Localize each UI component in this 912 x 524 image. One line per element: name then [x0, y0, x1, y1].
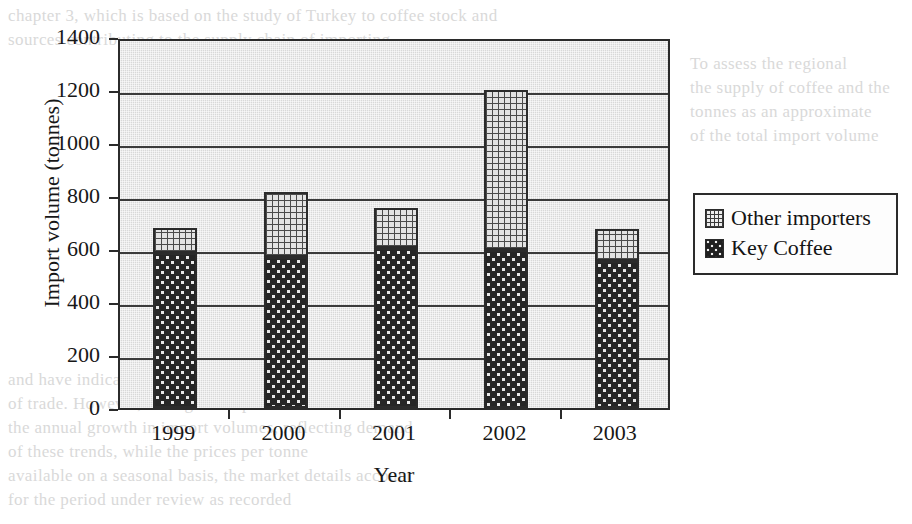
bar-stack[interactable]: [595, 37, 639, 408]
bar-segment-other-importers[interactable]: [484, 90, 528, 250]
bar-segment-other-importers[interactable]: [153, 228, 197, 253]
y-axis-tick: [109, 144, 118, 146]
x-axis-tick: [228, 410, 230, 419]
chart-legend: Other importers Key Coffee: [693, 193, 898, 275]
y-axis-tick: [109, 409, 118, 411]
y-axis-tick: [109, 250, 118, 252]
y-axis-tick-label: 1400: [36, 26, 100, 48]
y-axis-tick-label: 200: [36, 344, 100, 366]
y-axis-tick-label: 1200: [36, 79, 100, 101]
x-axis-title: Year: [118, 462, 670, 488]
y-axis-tick: [109, 303, 118, 305]
legend-item-label: Other importers: [731, 206, 871, 230]
bar-segment-other-importers[interactable]: [595, 229, 639, 261]
x-axis-tick-label: 1999: [118, 421, 228, 445]
x-axis-tick: [339, 410, 341, 419]
y-axis-tick: [109, 91, 118, 93]
bar-segment-other-importers[interactable]: [264, 192, 308, 257]
bar-segment-key-coffee[interactable]: [374, 248, 418, 408]
y-axis-tick-label: 800: [36, 185, 100, 207]
bar-segment-key-coffee[interactable]: [264, 257, 308, 408]
y-axis-tick-label: 1000: [36, 132, 100, 154]
dotted-swatch-icon: [705, 239, 724, 258]
bar-stack[interactable]: [484, 37, 528, 408]
legend-item-label: Key Coffee: [731, 236, 833, 260]
x-axis-tick-label: 2001: [339, 421, 449, 445]
grid-swatch-icon: [705, 209, 724, 228]
x-axis-tick-label: 2000: [229, 421, 339, 445]
stacked-bar-chart: Import volume (tonnes) 14001200100080060…: [0, 0, 912, 524]
y-axis-tick: [109, 38, 118, 40]
x-axis-tick-label: 2002: [449, 421, 559, 445]
bar-segment-key-coffee[interactable]: [595, 261, 639, 408]
y-axis-tick: [109, 197, 118, 199]
bar-segment-key-coffee[interactable]: [484, 250, 528, 408]
x-axis-tick-label: 2003: [560, 421, 670, 445]
y-axis-tick: [109, 356, 118, 358]
y-axis-tick-label: 0: [36, 397, 100, 419]
plot-area: [118, 39, 670, 410]
bar-stack[interactable]: [264, 37, 308, 408]
y-axis-tick-label: 600: [36, 238, 100, 260]
legend-item-other-importers[interactable]: Other importers: [705, 203, 886, 233]
y-axis-tick-label: 400: [36, 291, 100, 313]
bar-segment-key-coffee[interactable]: [153, 253, 197, 408]
x-axis-tick: [449, 410, 451, 419]
bar-stack[interactable]: [153, 37, 197, 408]
x-axis-tick: [560, 410, 562, 419]
legend-item-key-coffee[interactable]: Key Coffee: [705, 233, 886, 263]
bar-stack[interactable]: [374, 37, 418, 408]
bar-segment-other-importers[interactable]: [374, 208, 418, 248]
